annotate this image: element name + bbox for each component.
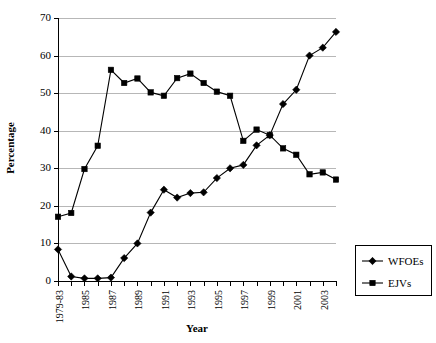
y-tick-label: 10 — [40, 236, 52, 248]
x-tick-label: 1979-83 — [54, 290, 65, 323]
square-marker — [69, 210, 74, 215]
square-marker — [161, 93, 166, 98]
square-marker — [214, 89, 219, 94]
square-marker — [108, 67, 113, 72]
x-axis-title: Year — [186, 322, 208, 334]
square-marker — [174, 75, 179, 80]
y-tick-label: 0 — [46, 274, 52, 286]
square-marker — [241, 138, 246, 143]
y-tick-label: 30 — [40, 161, 52, 173]
square-marker — [82, 166, 87, 171]
square-marker — [227, 93, 232, 98]
square-marker — [294, 152, 299, 157]
square-marker — [254, 127, 259, 132]
square-marker — [188, 71, 193, 76]
square-marker — [267, 133, 272, 138]
x-tick-label: 1985 — [80, 290, 91, 310]
x-tick-label: 1991 — [160, 290, 171, 310]
y-axis-title: Percentage — [4, 122, 16, 174]
x-tick-label: 1997 — [239, 290, 250, 310]
x-tick-label: 1989 — [133, 290, 144, 310]
y-tick-label: 50 — [40, 86, 52, 98]
square-marker — [201, 80, 206, 85]
y-tick-label: 20 — [40, 199, 52, 211]
legend-label: WFOEs — [388, 255, 423, 267]
square-marker — [320, 170, 325, 175]
x-tick-label: 1987 — [107, 290, 118, 310]
square-marker — [148, 90, 153, 95]
y-tick-label: 70 — [40, 11, 52, 23]
x-tick-label: 1995 — [213, 290, 224, 310]
chart-legend: WFOEsEJVs — [356, 246, 432, 296]
square-marker — [307, 172, 312, 177]
y-tick-label: 40 — [40, 124, 52, 136]
square-marker — [135, 76, 140, 81]
square-marker — [121, 80, 126, 85]
square-marker — [333, 177, 338, 182]
legend-label: EJVs — [388, 277, 411, 289]
percentage-by-year-line-chart: 010203040506070 1979-8319851987198919911… — [0, 0, 436, 343]
square-marker — [280, 146, 285, 151]
square-marker — [55, 214, 60, 219]
square-marker — [95, 143, 100, 148]
x-tick-label: 2003 — [319, 290, 330, 310]
x-tick-label: 1999 — [266, 290, 277, 310]
square-marker — [370, 280, 375, 285]
x-tick-label: 1993 — [186, 290, 197, 310]
chart-container: 010203040506070 1979-8319851987198919911… — [0, 0, 436, 343]
x-tick-label: 2001 — [292, 290, 303, 310]
y-tick-label: 60 — [40, 49, 52, 61]
